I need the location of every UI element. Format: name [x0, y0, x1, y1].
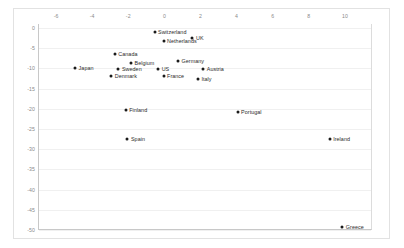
y-tick-label: -25: [27, 126, 35, 132]
data-point-label: Sweden: [122, 66, 142, 72]
x-tick-label: 2: [199, 13, 202, 19]
data-point: [236, 111, 239, 114]
plot-area: SwitzerlandUKNetherlandsCanadaGermanyBel…: [38, 24, 372, 230]
data-point: [130, 62, 133, 65]
x-tick-label: 10: [342, 13, 348, 19]
data-point-label: France: [167, 73, 184, 79]
x-tick-label: -6: [54, 13, 59, 19]
gridline-horizontal: [39, 109, 371, 110]
data-point-label: Switzerland: [158, 29, 186, 35]
x-tick-label: -2: [126, 13, 131, 19]
y-tick-label: -35: [27, 166, 35, 172]
gridline-horizontal: [39, 210, 371, 211]
scatter-chart-figure: -6-4-20246810 0-5-10-15-20-25-30-35-40-4…: [0, 0, 404, 248]
data-point: [113, 52, 116, 55]
data-point: [328, 137, 331, 140]
gridline-horizontal: [39, 129, 371, 130]
x-tick-label: 6: [271, 13, 274, 19]
data-point: [74, 67, 77, 70]
x-tick-label: 8: [307, 13, 310, 19]
y-tick-label: -20: [27, 106, 35, 112]
y-tick-label: 0: [32, 25, 35, 31]
gridline-horizontal: [39, 149, 371, 150]
y-tick-label: -40: [27, 187, 35, 193]
gridline-horizontal: [39, 169, 371, 170]
data-point-label: Canada: [118, 51, 137, 57]
data-point: [110, 75, 113, 78]
data-point: [153, 31, 156, 34]
y-axis-tick-labels: 0-5-10-15-20-25-30-35-40-45-50: [14, 24, 35, 230]
data-point-label: Germany: [182, 58, 205, 64]
data-point-label: Netherlands: [167, 38, 197, 44]
gridline-horizontal: [39, 89, 371, 90]
data-point-label: UK: [196, 35, 204, 41]
x-tick-label: -4: [90, 13, 95, 19]
data-point: [196, 77, 199, 80]
gridline-horizontal: [39, 190, 371, 191]
gridline-horizontal: [39, 28, 371, 29]
data-point: [202, 67, 205, 70]
data-point: [177, 59, 180, 62]
y-tick-label: -30: [27, 146, 35, 152]
data-point: [117, 68, 120, 71]
x-tick-label: 0: [163, 13, 166, 19]
y-tick-label: -10: [27, 65, 35, 71]
data-point-label: Finland: [129, 107, 147, 113]
y-tick-label: -15: [27, 86, 35, 92]
data-point-label: Italy: [201, 76, 211, 82]
x-tick-label: 4: [235, 13, 238, 19]
data-point: [341, 226, 344, 229]
x-axis-tick-labels: -6-4-20246810: [38, 13, 372, 22]
data-point-label: Denmark: [115, 73, 137, 79]
gridline-horizontal: [39, 48, 371, 49]
y-tick-label: -45: [27, 207, 35, 213]
data-point-label: Spain: [131, 136, 145, 142]
data-point-label: Austria: [207, 66, 224, 72]
data-point: [162, 40, 165, 43]
data-point: [162, 75, 165, 78]
data-point-label: Ireland: [333, 136, 350, 142]
y-tick-label: -50: [27, 227, 35, 233]
data-point-label: Greece: [346, 224, 364, 230]
data-point-label: Japan: [79, 65, 94, 71]
data-point: [126, 137, 129, 140]
data-point-label: US: [162, 66, 170, 72]
gridline-horizontal: [39, 230, 371, 231]
data-point: [124, 109, 127, 112]
data-point: [157, 68, 160, 71]
data-point-label: Portugal: [241, 109, 261, 115]
y-tick-label: -5: [30, 45, 35, 51]
